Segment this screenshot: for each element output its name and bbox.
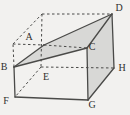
vertex-label-D: D [115, 2, 122, 13]
cuboid-diagram: ABCDEFGH [0, 0, 130, 115]
vertex-label-E: E [43, 71, 49, 82]
vertex-label-B: B [1, 61, 8, 72]
vertex-label-A: A [25, 31, 33, 42]
vertex-label-C: C [89, 41, 96, 52]
vertex-label-F: F [3, 95, 9, 106]
geometry-figure: ABCDEFGH [0, 0, 130, 115]
vertex-label-H: H [118, 62, 125, 73]
vertex-label-G: G [88, 99, 95, 110]
